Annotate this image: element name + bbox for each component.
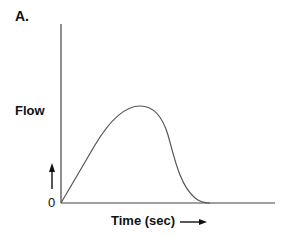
flow-curve <box>61 106 210 203</box>
up-arrow-icon <box>49 163 55 189</box>
flow-chart <box>0 0 288 239</box>
right-arrow-icon <box>180 219 207 225</box>
